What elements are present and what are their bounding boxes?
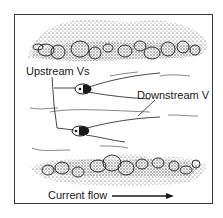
bottom-gravel-bank [30, 154, 206, 186]
upstream-fish-bottom [72, 117, 160, 142]
downstream-v-label: Downstream V [137, 90, 209, 101]
top-gravel-bank [28, 20, 207, 62]
leader-lines [52, 77, 155, 130]
current-flow-arrow [112, 193, 174, 199]
stream-illustration [0, 0, 223, 218]
current-flow-label: Current flow [48, 190, 107, 201]
upstream-vs-label: Upstream Vs [26, 66, 90, 77]
